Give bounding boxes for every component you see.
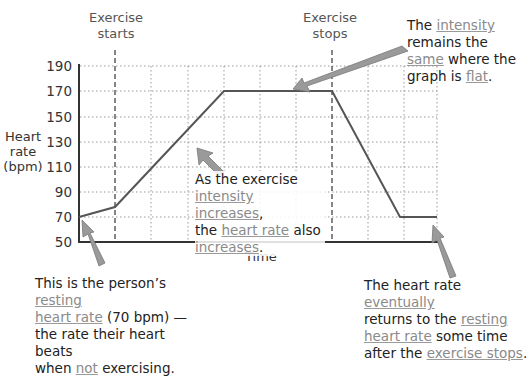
y-label-line1: Heart: [2, 129, 44, 144]
arrow-flat: [293, 46, 408, 92]
note-returns: The heart rate eventually returns to the…: [364, 277, 530, 362]
text: remains the: [407, 34, 530, 51]
exercise-stops-line2: stops: [298, 26, 362, 42]
text: also: [289, 222, 321, 238]
text: This is the person’s: [35, 275, 166, 291]
y-tick: 170: [42, 84, 72, 98]
text: .: [488, 68, 492, 84]
highlight-intensity: intensity: [436, 17, 495, 33]
text: graph is: [407, 68, 466, 84]
text: .: [259, 239, 263, 255]
text: after the: [364, 345, 427, 361]
y-tick: 150: [42, 110, 72, 124]
highlight-eventually: eventually: [364, 294, 435, 310]
y-tick: 190: [42, 59, 72, 73]
text: the rate their heart beats: [35, 326, 205, 360]
y-tick: 90: [42, 185, 72, 199]
text: The heart rate: [364, 277, 461, 293]
highlight-same: same: [407, 51, 444, 67]
note-increase: As the exercise intensity increases, the…: [195, 171, 325, 256]
text: when: [35, 360, 76, 376]
exercise-stops-line1: Exercise: [298, 10, 362, 26]
exercise-starts-label: Exercise starts: [84, 10, 148, 42]
highlight-heart-rate: heart rate: [35, 309, 103, 325]
text: .: [523, 345, 527, 361]
highlight-exercise-stops: exercise stops: [427, 345, 523, 361]
note-resting: This is the person’s resting heart rate …: [35, 275, 205, 377]
text: exercising.: [98, 360, 175, 376]
highlight-intensity-increases: intensity increases: [195, 188, 259, 221]
text: ,: [259, 205, 263, 221]
y-axis-label: Heart rate (bpm): [2, 129, 44, 174]
y-label-line2: rate: [2, 144, 44, 159]
text: As the exercise: [195, 171, 325, 188]
arrow-returns: [432, 225, 456, 278]
exercise-starts-line1: Exercise: [84, 10, 148, 26]
highlight-resting: resting: [461, 311, 508, 327]
highlight-heart-rate: heart rate: [364, 328, 432, 344]
exercise-stops-label: Exercise stops: [298, 10, 362, 42]
text: The: [407, 17, 436, 33]
text: the: [195, 222, 221, 238]
highlight-flat: flat: [466, 68, 488, 84]
highlight-not: not: [76, 360, 98, 376]
y-tick: 110: [42, 160, 72, 174]
text: where the: [444, 51, 516, 67]
text: some time: [432, 328, 508, 344]
highlight-resting: resting: [35, 292, 82, 308]
exercise-starts-line2: starts: [84, 26, 148, 42]
highlight-increases: increases: [195, 239, 259, 255]
y-tick: 130: [42, 135, 72, 149]
y-label-line3: (bpm): [2, 159, 44, 174]
highlight-heart-rate: heart rate: [221, 222, 289, 238]
y-tick: 70: [42, 210, 72, 224]
note-flat: The intensity remains the same where the…: [407, 17, 530, 85]
text: (70 bpm) —: [103, 309, 187, 325]
y-tick: 50: [42, 235, 72, 249]
text: returns to the: [364, 311, 461, 327]
